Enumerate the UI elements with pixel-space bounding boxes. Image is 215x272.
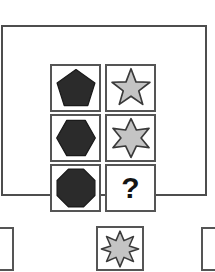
star-8-shape (100, 230, 140, 268)
octagon-shape (54, 167, 98, 209)
pentagon-shape (54, 67, 98, 109)
matrix-cell-r3c1[interactable] (50, 164, 101, 212)
matrix-reasoning-puzzle: ? (0, 0, 215, 272)
answer-option-center[interactable] (96, 226, 144, 271)
problem-frame: ? (1, 25, 207, 196)
hexagon-shape (54, 117, 98, 159)
matrix-grid: ? (50, 64, 156, 212)
matrix-cell-r1c2[interactable] (105, 64, 156, 112)
matrix-cell-r3c2-missing[interactable]: ? (105, 164, 156, 212)
star-6-shape (109, 117, 153, 159)
matrix-cell-r2c2[interactable] (105, 114, 156, 162)
matrix-cell-r2c1[interactable] (50, 114, 101, 162)
answer-option-right-cropped[interactable] (201, 227, 215, 271)
answer-options-strip (0, 226, 215, 272)
star-5-shape (109, 67, 153, 109)
matrix-cell-r1c1[interactable] (50, 64, 101, 112)
answer-option-left-cropped[interactable] (0, 227, 14, 271)
question-mark-label: ? (121, 173, 139, 203)
